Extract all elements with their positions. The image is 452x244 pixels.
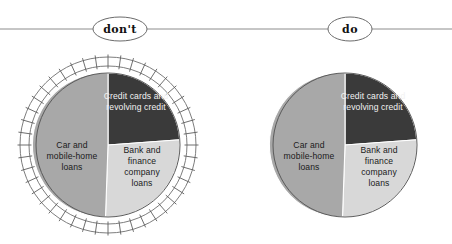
do-pie-chart: Credit cards and revolving credit Bank a… [269, 73, 417, 217]
do-label-credit-cards: Credit cards and revolving credit [341, 91, 406, 112]
do-car-line2: mobile-home [284, 151, 335, 161]
chartjunk-tick [40, 195, 51, 204]
dont-car-line1: Car and [56, 140, 87, 150]
chartjunk-tick [32, 96, 44, 104]
dont-bank-line1: Bank and [123, 145, 160, 155]
chartjunk-tick [59, 69, 67, 81]
dont-bank-line2: finance [128, 156, 157, 166]
dont-label-credit-cards: Credit cards and revolving credit [104, 91, 169, 112]
chartjunk-tick [172, 186, 184, 194]
do-bank-line1: Bank and [360, 145, 397, 155]
do-car-line3: loans [298, 162, 319, 172]
chartjunk-tick [158, 77, 167, 88]
do-bank-line3: company [361, 167, 397, 177]
chartjunk-tick [166, 195, 177, 204]
chartjunk-tick [49, 203, 58, 214]
dont-pill-label: don't [103, 23, 137, 36]
chartjunk-tick [40, 86, 51, 95]
chartjunk-tick [49, 77, 58, 88]
dont-credit-line2: revolving credit [106, 102, 166, 112]
chartjunk-tick [32, 186, 44, 194]
dont-bank-line3: company [124, 167, 160, 177]
dont-car-line3: loans [61, 162, 82, 172]
chartjunk-tick [149, 69, 157, 81]
do-credit-line2: revolving credit [343, 102, 403, 112]
chartjunk-tick [59, 209, 67, 221]
dont-bank-line4: loans [131, 178, 152, 188]
label-badge-dont: don't [93, 17, 147, 41]
dont-credit-line1: Credit cards and [104, 91, 169, 101]
chartjunk-tick [172, 96, 184, 104]
do-car-line1: Car and [293, 140, 324, 150]
do-bank-line4: loans [368, 178, 389, 188]
chartjunk-tick [149, 209, 157, 221]
do-credit-line1: Credit cards and [341, 91, 406, 101]
do-bank-line2: finance [365, 156, 394, 166]
dont-pie-chart: Credit cards and revolving credit Bank a… [18, 55, 199, 236]
figure-canvas: don't do Credit cards and revolving cred… [0, 0, 452, 244]
dont-car-line2: mobile-home [47, 151, 98, 161]
chartjunk-tick [158, 203, 167, 214]
do-pill-label: do [342, 23, 358, 36]
label-badge-do: do [328, 17, 372, 41]
dont-do-pie-figure: don't do Credit cards and revolving cred… [0, 0, 452, 244]
